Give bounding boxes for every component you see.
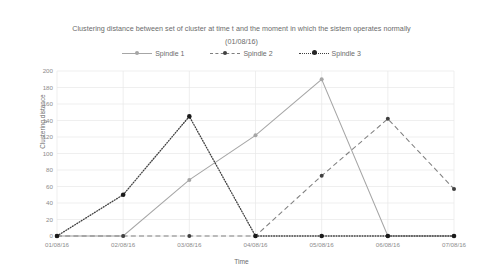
x-axis-title: Time bbox=[0, 258, 483, 265]
data-point[interactable] bbox=[55, 234, 60, 239]
data-point[interactable] bbox=[452, 187, 456, 191]
legend-label-spindle-3: Spindle 3 bbox=[332, 50, 361, 57]
chart-title: Clustering distance between set of clust… bbox=[0, 22, 483, 48]
y-tick-label: 120 bbox=[17, 134, 53, 140]
x-tick-label: 02/08/16 bbox=[94, 241, 152, 248]
chart-figure: Clustering distance between set of clust… bbox=[0, 0, 483, 280]
data-point[interactable] bbox=[254, 133, 258, 137]
y-tick-label: 180 bbox=[17, 85, 53, 91]
x-tick-label: 06/08/16 bbox=[359, 241, 417, 248]
data-point[interactable] bbox=[121, 192, 126, 197]
data-point[interactable] bbox=[320, 174, 324, 178]
data-point[interactable] bbox=[386, 234, 391, 239]
y-tick-label: 60 bbox=[17, 184, 53, 190]
legend-item-spindle-3[interactable]: Spindle 3 bbox=[299, 49, 361, 58]
data-point[interactable] bbox=[187, 178, 191, 182]
data-point[interactable] bbox=[320, 77, 324, 81]
legend-swatch-dotted-icon bbox=[299, 49, 329, 58]
chart-title-line-1: Clustering distance between set of clust… bbox=[0, 22, 483, 35]
y-tick-label: 140 bbox=[17, 118, 53, 124]
x-tick-label: 07/08/16 bbox=[425, 241, 483, 248]
data-point[interactable] bbox=[452, 234, 457, 239]
data-point[interactable] bbox=[253, 234, 258, 239]
data-point[interactable] bbox=[187, 234, 191, 238]
legend-label-spindle-2: Spindle 2 bbox=[243, 50, 272, 57]
legend-swatch-dashed-icon bbox=[210, 49, 240, 58]
y-tick-label: 80 bbox=[17, 167, 53, 173]
legend-swatch-solid-icon bbox=[122, 49, 152, 58]
plot-area bbox=[57, 71, 454, 236]
x-tick-label: 05/08/16 bbox=[293, 241, 351, 248]
x-tick-label: 01/08/16 bbox=[28, 241, 86, 248]
plot-canvas bbox=[57, 71, 454, 236]
y-tick-label: 0 bbox=[17, 233, 53, 239]
y-tick-label: 160 bbox=[17, 101, 53, 107]
chart-title-line-2: (01/08/16) bbox=[0, 35, 483, 48]
chart-legend: Spindle 1 Spindle 2 Spindle 3 bbox=[0, 49, 483, 58]
data-point[interactable] bbox=[319, 234, 324, 239]
legend-item-spindle-2[interactable]: Spindle 2 bbox=[210, 49, 272, 58]
x-tick-label: 04/08/16 bbox=[227, 241, 285, 248]
data-point[interactable] bbox=[386, 117, 390, 121]
y-tick-label: 20 bbox=[17, 217, 53, 223]
grid-lines bbox=[57, 71, 454, 236]
x-tick-label: 03/08/16 bbox=[160, 241, 218, 248]
y-tick-label: 200 bbox=[17, 68, 53, 74]
y-tick-label: 40 bbox=[17, 200, 53, 206]
legend-item-spindle-1[interactable]: Spindle 1 bbox=[122, 49, 184, 58]
data-point[interactable] bbox=[121, 234, 125, 238]
legend-label-spindle-1: Spindle 1 bbox=[155, 50, 184, 57]
y-tick-label: 100 bbox=[17, 151, 53, 157]
data-point[interactable] bbox=[187, 114, 192, 119]
